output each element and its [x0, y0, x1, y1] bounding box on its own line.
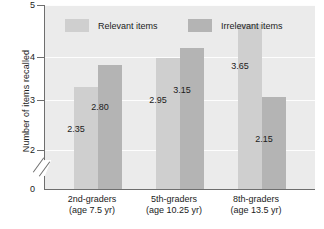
bar-value-irrelevant-8th-graders: 2.15	[250, 135, 278, 144]
x-tick-group-8th-graders-line2: (age 13.5 yr)	[211, 205, 301, 216]
x-tick-group-5th-graders: 5th-graders (age 10.25 yr)	[129, 194, 219, 216]
y-tick-label-0: 0	[11, 185, 35, 194]
legend-swatch-irrelevant-items[interactable]	[188, 19, 212, 32]
x-tick-group-8th-graders-line1: 8th-graders	[211, 194, 301, 205]
y-tick-mark-3	[37, 100, 44, 101]
y-tick-mark-4	[37, 57, 44, 58]
bar-value-irrelevant-5th-graders: 3.15	[168, 86, 196, 95]
x-tick-group-8th-graders: 8th-graders (age 13.5 yr)	[211, 194, 301, 216]
x-tick-group-2nd-graders-line2: (age 7.5 yr)	[47, 205, 137, 216]
x-axis-line	[44, 189, 315, 190]
axis-break-icon	[33, 155, 55, 181]
bar-chart-figure: Number of items recalled 5 4 3 2 0 2.35 …	[0, 0, 324, 229]
x-tick-group-2nd-graders: 2nd-graders (age 7.5 yr)	[47, 194, 137, 216]
legend-label-relevant-items: Relevant items	[98, 22, 158, 31]
bar-irrelevant-2nd-graders[interactable]	[98, 65, 122, 189]
legend-swatch-relevant-items[interactable]	[65, 19, 89, 32]
gridline-5	[45, 5, 315, 6]
x-tick-group-5th-graders-line1: 5th-graders	[129, 194, 219, 205]
bar-relevant-8th-graders[interactable]	[238, 24, 262, 189]
bar-value-relevant-2nd-graders: 2.35	[62, 125, 90, 134]
bar-value-relevant-8th-graders: 3.65	[226, 62, 254, 71]
x-tick-group-5th-graders-line2: (age 10.25 yr)	[129, 205, 219, 216]
y-tick-label-4: 4	[11, 53, 35, 62]
bar-value-irrelevant-2nd-graders: 2.80	[86, 103, 114, 112]
y-tick-label-5: 5	[11, 1, 35, 10]
legend-label-irrelevant-items: Irrelevant items	[221, 22, 283, 31]
y-tick-label-2: 2	[11, 146, 35, 155]
bar-relevant-5th-graders[interactable]	[156, 58, 180, 189]
bar-irrelevant-5th-graders[interactable]	[180, 48, 204, 189]
y-tick-mark-2	[37, 150, 44, 151]
bar-value-relevant-5th-graders: 2.95	[144, 96, 172, 105]
axis-break-slash-2	[39, 161, 50, 176]
plot-area	[45, 5, 315, 189]
x-tick-group-2nd-graders-line1: 2nd-graders	[47, 194, 137, 205]
y-tick-mark-5	[37, 5, 44, 6]
y-tick-label-3: 3	[11, 96, 35, 105]
